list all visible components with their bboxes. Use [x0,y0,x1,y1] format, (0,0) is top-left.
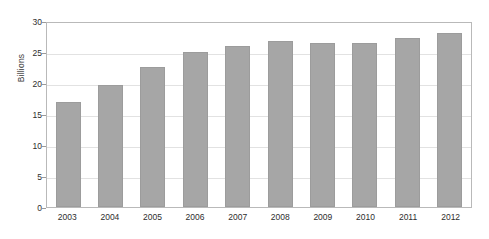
x-axis-tick-label: 2007 [217,211,259,223]
x-axis-tick-label: 2012 [430,211,472,223]
y-axis-tick-label: 20 [6,80,42,89]
x-axis-tick-label: 2009 [302,211,344,223]
y-axis-tick-mark [42,208,46,209]
y-axis-tick-label: 5 [6,173,42,182]
x-axis-tick-label: 2010 [344,211,386,223]
y-axis-tick-label: 15 [6,111,42,120]
bar-2008 [268,41,293,207]
bar-2011 [395,38,420,207]
y-axis-tick-labels: 051015202530 [0,22,42,208]
bar-2003 [56,102,81,207]
x-axis-tick-label: 2004 [89,211,131,223]
y-axis-tick-label: 10 [6,142,42,151]
bar-2009 [310,43,335,207]
bar-2010 [352,43,377,207]
y-axis-tick-label: 30 [6,18,42,27]
x-axis-tick-label: 2003 [46,211,88,223]
bar-2006 [183,52,208,207]
x-axis-tick-labels: 2003200420052006200720082009201020112012 [46,211,472,227]
bar-2005 [140,67,165,207]
x-axis-tick-label: 2011 [387,211,429,223]
x-axis-tick-label: 2008 [259,211,301,223]
bar-chart: Billions 051015202530 200320042005200620… [0,0,489,239]
y-axis-tick-label: 0 [6,204,42,213]
bar-2007 [225,46,250,207]
bars-group [47,23,471,207]
y-axis-tick-label: 25 [6,49,42,58]
x-axis-tick-label: 2005 [131,211,173,223]
x-axis-tick-label: 2006 [174,211,216,223]
plot-area [46,22,472,208]
bar-2004 [98,85,123,207]
bar-2012 [437,33,462,207]
